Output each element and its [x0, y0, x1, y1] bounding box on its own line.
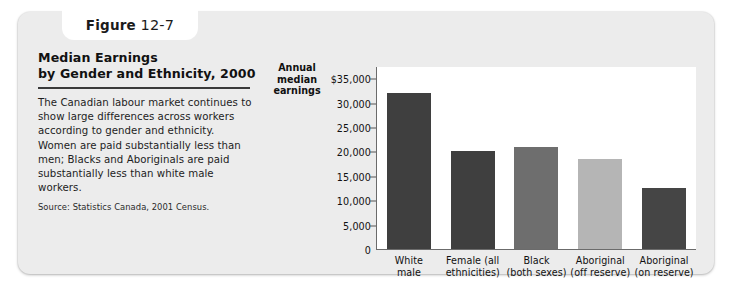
x-axis-tick-label: Whitemale [377, 255, 441, 279]
x-axis-tick-label-line: Black [505, 255, 569, 267]
x-axis-tick-label-line: ethnicities) [441, 267, 505, 279]
bar-series [377, 67, 696, 249]
x-axis-tick-label: Female (allethnicities) [441, 255, 505, 279]
bar [387, 93, 431, 249]
y-axis-tick-mark [370, 225, 376, 226]
x-axis-labels: WhitemaleFemale (allethnicities)Black(bo… [377, 255, 696, 279]
x-axis-tick-label-line: Aboriginal [632, 255, 696, 267]
figure-card: Figure 12-7 Median Earnings by Gender an… [18, 12, 714, 274]
figure-number-tab: Figure 12-7 [62, 10, 198, 40]
y-axis-tick-mark [370, 128, 376, 129]
bar-slot [505, 67, 569, 249]
bar [514, 147, 558, 249]
figure-word: Figure [86, 17, 136, 33]
figure-number-label: Figure 12-7 [86, 17, 174, 33]
x-axis-tick-label: Aboriginal(on reserve) [632, 255, 696, 279]
x-axis-tick-label-line: White [377, 255, 441, 267]
bar [578, 159, 622, 249]
x-axis-tick-label-line: Aboriginal [568, 255, 632, 267]
y-axis-tick-mark [370, 176, 376, 177]
x-axis-line [376, 249, 696, 250]
bar [451, 151, 495, 249]
figure-title-line-1: Median Earnings [38, 50, 256, 66]
bar-chart: $35,00030,00025,00020,00015,00010,0005,0… [330, 62, 696, 258]
y-axis-caption-line-3: earnings [266, 85, 328, 97]
x-axis-tick-label-line: Female (all [441, 255, 505, 267]
bar-slot [441, 67, 505, 249]
figure-title-line-2: by Gender and Ethnicity, 2000 [38, 66, 256, 82]
figure-number: 12-7 [140, 17, 174, 33]
bar-slot [377, 67, 441, 249]
plot-area: $35,00030,00025,00020,00015,00010,0005,0… [376, 67, 696, 250]
y-axis-tick-mark [370, 103, 376, 104]
y-axis-tick-label: 0 [365, 245, 376, 256]
x-axis-tick-label-line: male [377, 267, 441, 279]
x-axis-tick-label-line: (off reserve) [568, 267, 632, 279]
x-axis-tick-label-line: (on reserve) [632, 267, 696, 279]
title-divider [38, 87, 250, 89]
y-axis-tick-mark [370, 79, 376, 80]
figure-title: Median Earnings by Gender and Ethnicity,… [38, 50, 256, 81]
y-axis-caption-line-1: Annual [266, 62, 328, 74]
figure-description-text: The Canadian labour market continues to … [38, 96, 256, 195]
figure-source-note: Source: Statistics Canada, 2001 Census. [38, 202, 256, 212]
y-axis-tick-mark [370, 152, 376, 153]
y-axis-tick-mark [370, 201, 376, 202]
bar-slot [568, 67, 632, 249]
x-axis-tick-label: Black(both sexes) [505, 255, 569, 279]
bar [642, 188, 686, 249]
bar-slot [632, 67, 696, 249]
description-column: Median Earnings by Gender and Ethnicity,… [38, 50, 256, 212]
x-axis-tick-label-line: (both sexes) [505, 267, 569, 279]
y-axis-caption: Annual median earnings [266, 62, 328, 97]
x-axis-tick-label: Aboriginal(off reserve) [568, 255, 632, 279]
y-axis-caption-line-2: median [266, 74, 328, 86]
